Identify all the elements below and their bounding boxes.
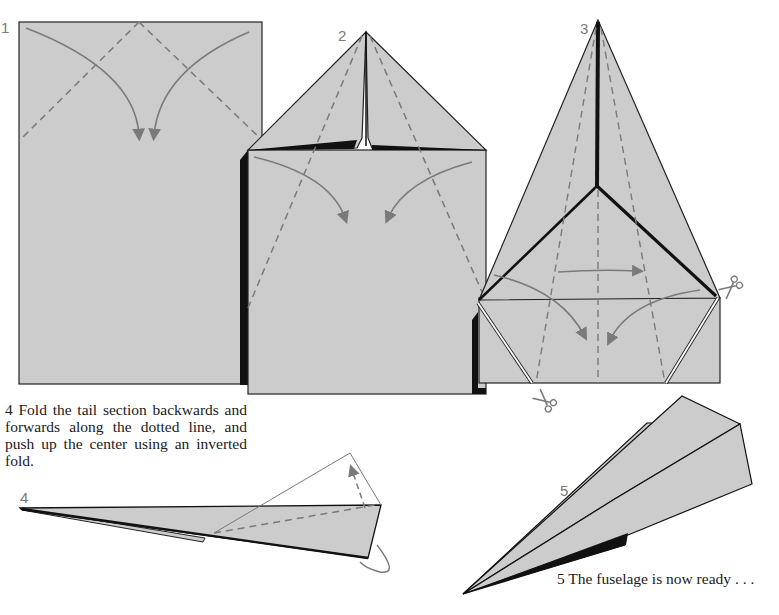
origami-diagram: 1 2 3 4 5 bbox=[0, 0, 779, 615]
step-4-caption: 4 Fold the tail section backwards and fo… bbox=[5, 401, 247, 469]
step-5-illustration bbox=[463, 396, 752, 594]
scissors-icon bbox=[532, 388, 558, 413]
scissors-icon bbox=[718, 275, 744, 300]
step-1-illustration bbox=[19, 22, 262, 384]
step-5-caption: 5 The fuselage is now ready . . . bbox=[557, 570, 754, 587]
step-4-illustration bbox=[20, 453, 389, 572]
step-2-illustration bbox=[240, 32, 486, 394]
diagram-illustrations bbox=[0, 0, 779, 615]
step-3-illustration bbox=[478, 20, 720, 383]
